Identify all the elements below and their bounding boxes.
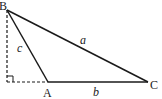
side-label-a: a (80, 33, 86, 47)
side-label-c: c (17, 41, 23, 55)
right-angle-marker (7, 76, 13, 82)
vertex-label-a: A (43, 86, 52, 99)
triangle-diagram: B A C a b c (0, 0, 162, 99)
side-label-b: b (93, 85, 99, 99)
vertex-label-b: B (0, 0, 7, 13)
vertex-label-c: C (150, 78, 158, 92)
